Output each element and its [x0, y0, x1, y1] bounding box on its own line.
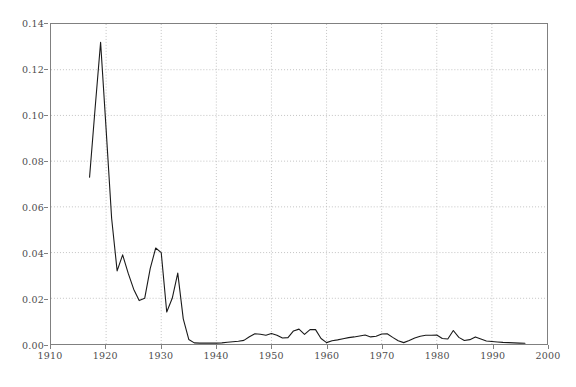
x-tick-label: 1930: [148, 350, 173, 361]
x-tick-mark: [216, 345, 217, 349]
y-tick-mark: [44, 161, 48, 162]
plot-area: [50, 23, 548, 345]
x-tick-mark: [382, 345, 383, 349]
chart-figure: 0.000.020.040.060.080.100.120.14 1910192…: [0, 0, 576, 387]
x-tick-label: 1910: [38, 350, 63, 361]
x-tick-mark: [493, 345, 494, 349]
x-tick-label: 1950: [259, 350, 284, 361]
y-axis-tick-labels: 0.000.020.040.060.080.100.120.14: [0, 23, 44, 345]
y-tick-mark: [44, 115, 48, 116]
x-tick-mark: [105, 345, 106, 349]
x-tick-label: 1980: [425, 350, 450, 361]
series-path-1: [90, 42, 525, 343]
y-tick-mark: [44, 345, 48, 346]
y-tick-mark: [44, 207, 48, 208]
x-tick-label: 1940: [204, 350, 229, 361]
y-tick-label: 0.02: [22, 294, 44, 305]
y-tick-label: 0.14: [22, 18, 44, 29]
x-tick-mark: [271, 345, 272, 349]
y-tick-label: 0.08: [22, 156, 44, 167]
x-tick-label: 2000: [536, 350, 561, 361]
y-tick-label: 0.12: [22, 64, 44, 75]
y-tick-label: 0.06: [22, 202, 44, 213]
x-tick-mark: [437, 345, 438, 349]
x-tick-label: 1970: [370, 350, 395, 361]
x-tick-mark: [548, 345, 549, 349]
data-series-line: [51, 24, 547, 344]
y-tick-mark: [44, 299, 48, 300]
x-tick-label: 1960: [314, 350, 339, 361]
y-tick-mark: [44, 23, 48, 24]
x-axis-tick-labels: 1910192019301940195019601970198019902000: [0, 350, 576, 366]
y-tick-mark: [44, 69, 48, 70]
x-tick-mark: [50, 345, 51, 349]
x-tick-label: 1990: [480, 350, 505, 361]
y-tick-mark: [44, 253, 48, 254]
x-tick-mark: [327, 345, 328, 349]
y-tick-label: 0.00: [22, 340, 44, 351]
y-tick-label: 0.04: [22, 248, 44, 259]
y-tick-label: 0.10: [22, 110, 44, 121]
x-tick-label: 1920: [93, 350, 118, 361]
x-tick-mark: [161, 345, 162, 349]
